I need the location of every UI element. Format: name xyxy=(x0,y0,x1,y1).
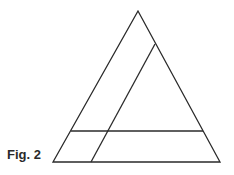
outer-triangle xyxy=(53,11,220,162)
figure-caption: Fig. 2 xyxy=(7,148,41,162)
inner-slanted-line xyxy=(91,44,155,162)
